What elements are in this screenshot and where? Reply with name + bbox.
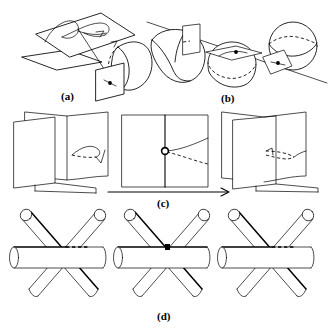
- transition-arrow: [108, 188, 229, 196]
- plane-on-cylinder: [183, 24, 200, 55]
- cylinder-horizontal-1: [10, 247, 107, 268]
- cylinder-horizontal-3: [218, 247, 315, 268]
- figure-canvas: [0, 0, 331, 328]
- tangency-point-dot-right: [276, 61, 280, 65]
- fold-stage-right: [222, 112, 318, 192]
- small-lower-plane: [22, 50, 102, 70]
- three-cylinders-triple-point: [114, 207, 213, 297]
- fold-stage-middle: [122, 115, 208, 187]
- triple-point-marker: [165, 244, 170, 250]
- three-cylinders-after: [218, 207, 317, 297]
- double-point-marker: [162, 148, 169, 155]
- panel-d-group: [10, 207, 317, 297]
- panel-b-group: [147, 22, 327, 87]
- fold-stage-left: [14, 112, 108, 193]
- panel-label-c: (c): [157, 197, 169, 209]
- panel-label-a: (a): [61, 90, 74, 102]
- panel-label-b: (b): [221, 92, 234, 104]
- figure-root: (a) (b) (c) (d): [0, 0, 331, 328]
- cylinder-horizontal-2: [114, 247, 211, 268]
- panel-c-group: [14, 112, 318, 196]
- tangency-point-dot-left: [234, 50, 238, 54]
- three-cylinders-before: [10, 207, 109, 297]
- panel-label-d: (d): [157, 310, 170, 322]
- panel-a-group: [22, 13, 152, 101]
